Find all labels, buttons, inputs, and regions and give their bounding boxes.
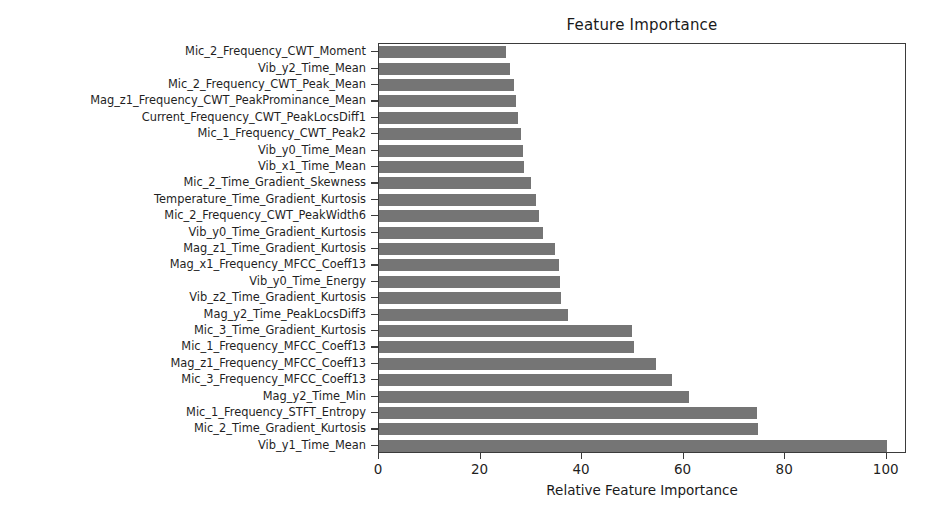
- y-axis-tick-label: Mag_x1_Frequency_MFCC_Coeff13: [0, 258, 366, 270]
- x-axis-tick-label: 60: [674, 461, 691, 477]
- y-axis-tick-mark: [371, 445, 378, 446]
- bar: [379, 145, 523, 157]
- y-axis-tick-label: Mic_3_Time_Gradient_Kurtosis: [0, 324, 366, 336]
- y-axis-tick-mark: [371, 363, 378, 364]
- y-axis-tick-label: Mag_z1_Time_Gradient_Kurtosis: [0, 242, 366, 254]
- x-axis-tick-label: 100: [873, 461, 899, 477]
- bar: [379, 95, 516, 107]
- bar-fill: [379, 95, 516, 107]
- x-axis-tick-label: 40: [572, 461, 589, 477]
- x-axis-tick-mark: [378, 453, 379, 459]
- y-axis-tick-label: Mic_2_Frequency_CWT_Moment: [0, 45, 366, 57]
- y-axis-tick-mark: [371, 232, 378, 233]
- y-axis-tick-label: Vib_y2_Time_Mean: [0, 62, 366, 74]
- bar-fill: [379, 161, 524, 173]
- y-axis-tick-mark: [371, 346, 378, 347]
- y-axis-tick-mark: [371, 68, 378, 69]
- y-axis-tick-mark: [371, 412, 378, 413]
- bar: [379, 292, 561, 304]
- y-axis-tick-mark: [371, 264, 378, 265]
- y-axis-tick-mark: [371, 330, 378, 331]
- y-axis-tick-label: Mic_2_Frequency_CWT_PeakWidth6: [0, 209, 366, 221]
- bar: [379, 243, 555, 255]
- bar: [379, 177, 531, 189]
- bar-fill: [379, 341, 634, 353]
- bar: [379, 259, 559, 271]
- bar-fill: [379, 407, 757, 419]
- y-axis-tick-mark: [371, 51, 378, 52]
- bar: [379, 391, 689, 403]
- y-axis-tick-label: Mic_2_Time_Gradient_Kurtosis: [0, 422, 366, 434]
- y-axis-tick-label: Mag_y2_Time_PeakLocsDiff3: [0, 308, 366, 320]
- y-axis-tick-label: Temperature_Time_Gradient_Kurtosis: [0, 193, 366, 205]
- bar: [379, 63, 510, 75]
- y-axis-tick-mark: [371, 133, 378, 134]
- bar: [379, 128, 521, 140]
- bar-fill: [379, 112, 518, 124]
- bar-fill: [379, 423, 758, 435]
- x-axis-tick-mark: [683, 453, 684, 459]
- y-axis-tick-mark: [371, 166, 378, 167]
- bar-fill: [379, 177, 531, 189]
- bar-fill: [379, 358, 656, 370]
- bar: [379, 276, 560, 288]
- y-axis-tick-mark: [371, 314, 378, 315]
- y-axis-tick-mark: [371, 182, 378, 183]
- bar: [379, 161, 524, 173]
- y-axis-tick-label: Mic_2_Time_Gradient_Skewness: [0, 176, 366, 188]
- bar: [379, 46, 506, 58]
- bar: [379, 407, 757, 419]
- y-axis-tick-label: Mag_z1_Frequency_MFCC_Coeff13: [0, 357, 366, 369]
- y-axis-tick-label: Mic_1_Frequency_CWT_Peak2: [0, 127, 366, 139]
- bar-fill: [379, 309, 568, 321]
- bar-fill: [379, 210, 539, 222]
- y-axis-tick-mark: [371, 215, 378, 216]
- y-axis-tick-label: Mag_z1_Frequency_CWT_PeakProminance_Mean: [0, 94, 366, 106]
- bar-fill: [379, 391, 689, 403]
- y-axis-tick-mark: [371, 117, 378, 118]
- y-axis-tick-label: Current_Frequency_CWT_PeakLocsDiff1: [0, 111, 366, 123]
- chart-title: Feature Importance: [378, 16, 906, 34]
- bar-fill: [379, 243, 555, 255]
- x-axis-tick-label: 80: [776, 461, 793, 477]
- bar-fill: [379, 276, 560, 288]
- y-axis-tick-mark: [371, 84, 378, 85]
- bar: [379, 341, 634, 353]
- y-axis-tick-mark: [371, 199, 378, 200]
- bar-fill: [379, 440, 887, 452]
- y-axis-tick-label: Vib_y0_Time_Gradient_Kurtosis: [0, 226, 366, 238]
- y-axis-tick-mark: [371, 396, 378, 397]
- y-axis-tick-label: Mic_2_Frequency_CWT_Peak_Mean: [0, 78, 366, 90]
- y-axis-tick-label: Vib_x1_Time_Mean: [0, 160, 366, 172]
- bar-fill: [379, 374, 672, 386]
- x-axis-tick-mark: [480, 453, 481, 459]
- bar: [379, 374, 672, 386]
- bar-fill: [379, 227, 543, 239]
- bar-fill: [379, 63, 510, 75]
- bar: [379, 423, 758, 435]
- plot-area: [378, 43, 906, 453]
- y-axis-tick-mark: [371, 281, 378, 282]
- x-axis-tick-label: 0: [374, 461, 383, 477]
- y-axis-tick-label: Vib_y0_Time_Mean: [0, 144, 366, 156]
- x-axis-tick-label: 20: [471, 461, 488, 477]
- bar: [379, 194, 536, 206]
- x-axis-title: Relative Feature Importance: [378, 482, 906, 498]
- y-axis-tick-mark: [371, 100, 378, 101]
- bar: [379, 227, 543, 239]
- y-axis-label-group: Mic_2_Frequency_CWT_MomentVib_y2_Time_Me…: [0, 43, 366, 453]
- y-axis-tick-label: Vib_y1_Time_Mean: [0, 439, 366, 451]
- y-axis-tick-label: Vib_z2_Time_Gradient_Kurtosis: [0, 291, 366, 303]
- y-axis-tick-mark: [371, 248, 378, 249]
- bar-fill: [379, 79, 514, 91]
- x-axis-tick-mark: [886, 453, 887, 459]
- bar-fill: [379, 145, 523, 157]
- y-axis-tick-label: Mic_3_Frequency_MFCC_Coeff13: [0, 373, 366, 385]
- bar-fill: [379, 259, 559, 271]
- bar: [379, 325, 632, 337]
- y-axis-tick-mark: [371, 297, 378, 298]
- bar: [379, 309, 568, 321]
- bar: [379, 112, 518, 124]
- x-axis-tick-mark: [784, 453, 785, 459]
- y-axis-tick-mark: [371, 428, 378, 429]
